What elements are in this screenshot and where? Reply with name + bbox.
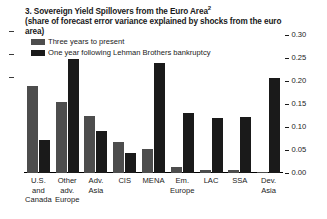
y-axis-tick-value: 0.30 bbox=[292, 30, 307, 39]
left-tick-mark bbox=[9, 31, 14, 32]
y-axis-tick-value: 0.05 bbox=[292, 145, 307, 154]
y-axis-tick-label: 0.25 bbox=[285, 53, 306, 62]
bar-group bbox=[110, 28, 139, 173]
y-axis-tick-value: 0.00 bbox=[292, 168, 307, 177]
plot-area bbox=[24, 28, 283, 173]
bar-lehman bbox=[125, 153, 136, 173]
y-axis-tick-dash bbox=[285, 150, 289, 151]
bar-group bbox=[197, 28, 226, 173]
bar-three-years bbox=[257, 172, 268, 173]
panel-number: 3. bbox=[25, 7, 32, 16]
bar-group bbox=[82, 28, 111, 173]
bar-group bbox=[254, 28, 283, 173]
x-axis-label-line: Asia bbox=[78, 186, 115, 196]
x-axis-label-line: Europe bbox=[49, 195, 86, 205]
bar-lehman bbox=[39, 140, 50, 173]
y-axis-tick-dash bbox=[285, 58, 289, 59]
x-axis-label-line: Asia bbox=[250, 186, 287, 196]
bar-three-years bbox=[84, 116, 95, 174]
bar-three-years bbox=[171, 167, 182, 173]
bar-lehman bbox=[154, 63, 165, 173]
bar-group bbox=[24, 28, 53, 173]
y-axis-tick-dash bbox=[285, 127, 289, 128]
y-axis-tick-label: 0.30 bbox=[285, 30, 306, 39]
bar-lehman bbox=[240, 117, 251, 173]
bar-three-years bbox=[113, 142, 124, 173]
y-axis-tick-dash bbox=[285, 104, 289, 105]
bar-lehman bbox=[212, 118, 223, 173]
bar-three-years bbox=[27, 86, 38, 173]
y-axis-tick-label: 0.05 bbox=[285, 145, 306, 154]
bar-three-years bbox=[142, 149, 153, 173]
bar-three-years bbox=[200, 170, 211, 173]
x-axis-label: Dev.Asia bbox=[250, 176, 287, 195]
y-axis-tick-label: 0.15 bbox=[285, 99, 306, 108]
x-axis-label-line: Europe bbox=[164, 186, 201, 196]
y-axis-tick-label: 0.20 bbox=[285, 76, 306, 85]
y-axis-tick-value: 0.15 bbox=[292, 99, 307, 108]
panel-title-text: Sovereign Yield Spillovers from the Euro… bbox=[34, 7, 208, 16]
y-axis-right: 0.000.050.100.150.200.250.30 bbox=[285, 0, 327, 219]
x-axis-labels: U.S.andCanadaOtheradv.EuropeAdv.AsiaCISM… bbox=[24, 176, 283, 218]
y-axis-tick-dash bbox=[285, 81, 289, 82]
y-axis-tick-label: 0.10 bbox=[285, 122, 306, 131]
chart-panel: 3. Sovereign Yield Spillovers from the E… bbox=[0, 0, 327, 219]
y-axis-tick-value: 0.20 bbox=[292, 76, 307, 85]
bar-three-years bbox=[228, 170, 239, 173]
bar-lehman bbox=[96, 131, 107, 173]
bar-lehman bbox=[183, 113, 194, 173]
bar-group bbox=[168, 28, 197, 173]
bar-lehman bbox=[68, 59, 79, 173]
bar-group bbox=[53, 28, 82, 173]
left-tick-mark bbox=[9, 77, 14, 78]
left-tick-mark bbox=[9, 54, 14, 55]
bar-three-years bbox=[56, 102, 67, 173]
bar-group bbox=[225, 28, 254, 173]
y-axis-tick-dash bbox=[285, 35, 289, 36]
y-axis-tick-label: 0.00 bbox=[285, 168, 306, 177]
panel-title-footnote-marker: 2 bbox=[208, 5, 211, 11]
x-axis-label-line: Dev. bbox=[250, 176, 287, 186]
bar-lehman bbox=[269, 78, 280, 173]
y-axis-tick-value: 0.10 bbox=[292, 122, 307, 131]
y-axis-tick-dash bbox=[285, 173, 289, 174]
y-axis-tick-value: 0.25 bbox=[292, 53, 307, 62]
bar-group bbox=[139, 28, 168, 173]
